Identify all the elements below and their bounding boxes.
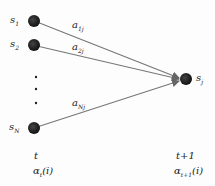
edge-s2-sj: [37, 46, 179, 79]
trellis-diagram: s1 s2 sN sj a1j a2j aNj t αt(i) t+1 αt+1…: [0, 0, 215, 186]
node-sN: [28, 122, 40, 134]
ellipsis-dot: [35, 102, 37, 104]
label-sN: sN: [9, 122, 19, 134]
node-s1: [28, 15, 40, 27]
ellipsis-dot: [35, 76, 37, 78]
label-a2j: a2j: [72, 42, 84, 54]
label-s2: s2: [10, 39, 19, 51]
label-time-t: t: [34, 151, 38, 161]
label-s1: s1: [10, 15, 19, 27]
ellipsis-dot: [35, 88, 37, 90]
node-s2: [28, 39, 40, 51]
edge-sN-sj: [37, 81, 179, 127]
edge-s1-sj: [37, 22, 179, 78]
label-a1j: a1j: [72, 20, 84, 32]
label-sj: sj: [196, 73, 203, 85]
label-alpha-t: αt(i): [33, 166, 53, 178]
label-aNj: aNj: [72, 98, 85, 110]
node-sj: [180, 73, 192, 85]
label-alpha-t1: αt+1(i): [174, 166, 203, 178]
label-time-t1: t+1: [176, 151, 195, 161]
